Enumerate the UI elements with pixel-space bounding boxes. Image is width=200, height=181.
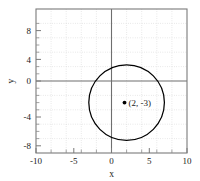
y-tick-label-minus-4: -4 [24, 112, 32, 122]
scatter-plot: 8 4 0 -4 -8 -10 -5 0 5 10 x y (2, -3) [0, 0, 200, 181]
y-axis-title: y [6, 78, 16, 83]
data-point-marker [123, 101, 127, 105]
chart-figure: 8 4 0 -4 -8 -10 -5 0 5 10 x y (2, -3) [0, 0, 200, 181]
data-point-label: (2, -3) [129, 98, 152, 108]
y-tick-label-4: 4 [27, 55, 32, 65]
y-tick-label-8: 8 [27, 26, 32, 36]
x-tick-label-5: 5 [147, 156, 152, 166]
x-tick-label-minus-5: -5 [70, 156, 78, 166]
x-tick-label-minus-10: -10 [30, 156, 42, 166]
x-tick-label-0: 0 [109, 156, 114, 166]
x-tick-label-10: 10 [183, 156, 193, 166]
y-tick-label-0: 0 [27, 76, 32, 86]
y-tick-label-minus-8: -8 [24, 141, 32, 151]
x-axis-title: x [109, 169, 114, 179]
